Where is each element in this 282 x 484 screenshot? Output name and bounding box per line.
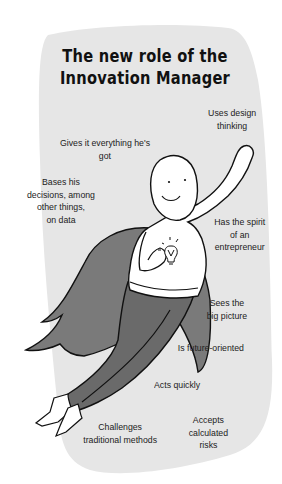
infographic: The new role of the Innovation Manager U… bbox=[0, 0, 282, 484]
trait-design-thinking: Uses designthinking bbox=[208, 107, 256, 132]
trait-data-decisions: Bases hisdecisions, amongother things,on… bbox=[27, 176, 95, 226]
trait-future-oriented: Is future-oriented bbox=[178, 342, 244, 355]
trait-gives-everything: Gives it everything he'sgot bbox=[60, 137, 150, 162]
trait-big-picture: Sees thebig picture bbox=[207, 297, 247, 322]
trait-acts-quickly: Acts quickly bbox=[154, 379, 200, 392]
trait-challenges-methods: Challengestraditional methods bbox=[83, 421, 157, 446]
head bbox=[151, 156, 198, 221]
trait-entrepreneur: Has the spiritof anentrepreneur bbox=[214, 216, 265, 254]
trait-calculated-risks: Acceptscalculatedrisks bbox=[189, 414, 228, 452]
page-title: The new role of the Innovation Manager bbox=[55, 45, 236, 89]
